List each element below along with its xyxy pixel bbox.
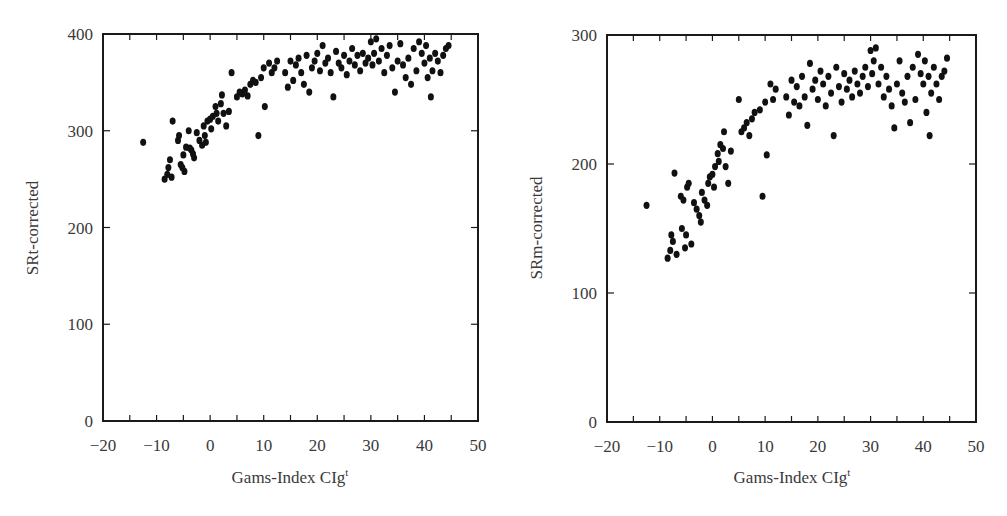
data-point — [752, 109, 758, 116]
data-point — [728, 148, 734, 155]
data-point — [725, 180, 731, 187]
data-point — [698, 218, 704, 225]
data-point — [762, 98, 768, 105]
data-point — [644, 202, 650, 209]
data-point — [862, 64, 868, 71]
data-point — [807, 60, 813, 67]
data-point — [828, 89, 834, 96]
data-point — [907, 119, 913, 126]
data-point — [823, 102, 829, 109]
data-point — [920, 80, 926, 87]
data-point — [839, 98, 845, 105]
data-point — [716, 158, 722, 165]
data-point — [709, 171, 715, 178]
data-point — [736, 96, 742, 103]
data-point — [794, 83, 800, 90]
data-point — [696, 212, 702, 219]
right-y-axis-label: SRm-corrected — [527, 176, 546, 279]
data-point — [715, 150, 721, 157]
data-point — [869, 70, 875, 77]
data-point — [796, 102, 802, 109]
data-point — [857, 89, 863, 96]
data-point — [849, 93, 855, 100]
data-point — [679, 225, 685, 232]
data-point — [873, 44, 879, 51]
y-tick-label: 100 — [572, 284, 598, 303]
x-tick-label: 30 — [862, 437, 879, 456]
y-tick-label: 300 — [572, 26, 598, 45]
data-point — [852, 68, 858, 75]
data-point — [721, 128, 727, 135]
x-tick-label: −10 — [646, 437, 673, 456]
data-point — [674, 251, 680, 258]
data-point — [786, 111, 792, 118]
data-point — [868, 47, 874, 54]
data-point — [927, 132, 933, 139]
data-point — [670, 238, 676, 245]
data-point — [833, 64, 839, 71]
data-point — [889, 102, 895, 109]
data-point — [941, 68, 947, 75]
data-point — [841, 70, 847, 77]
data-point — [854, 80, 860, 87]
data-point — [682, 244, 688, 251]
y-tick-label: 200 — [572, 155, 598, 174]
y-tick-label: 0 — [589, 413, 598, 432]
data-point — [820, 80, 826, 87]
data-point — [688, 240, 694, 247]
data-point — [931, 64, 937, 71]
data-point — [831, 132, 837, 139]
data-point — [817, 68, 823, 75]
data-point — [667, 247, 673, 254]
data-point — [770, 96, 776, 103]
data-point — [783, 93, 789, 100]
data-point — [812, 77, 818, 84]
data-point — [844, 86, 850, 93]
x-tick-label: 50 — [968, 437, 985, 456]
data-point — [804, 122, 810, 129]
data-point — [668, 231, 674, 238]
data-point — [836, 83, 842, 90]
data-point — [904, 73, 910, 80]
right-points — [644, 44, 950, 261]
data-point — [926, 73, 932, 80]
data-point — [711, 184, 717, 191]
data-point — [691, 199, 697, 206]
data-point — [744, 119, 750, 126]
data-point — [910, 64, 916, 71]
data-point — [699, 189, 705, 196]
data-point — [705, 180, 711, 187]
data-point — [891, 124, 897, 131]
right-x-axis-label-main: Gams-Index CIg — [734, 468, 848, 487]
data-point — [799, 73, 805, 80]
data-point — [789, 77, 795, 84]
data-point — [665, 255, 671, 262]
data-point — [680, 197, 686, 204]
data-point — [899, 89, 905, 96]
data-point — [791, 98, 797, 105]
data-point — [923, 109, 929, 116]
data-point — [760, 193, 766, 200]
data-point — [933, 80, 939, 87]
data-point — [922, 57, 928, 64]
data-point — [764, 151, 770, 158]
data-point — [757, 106, 763, 113]
data-point — [902, 98, 908, 105]
data-point — [720, 145, 726, 152]
data-point — [918, 70, 924, 77]
data-point — [875, 80, 881, 87]
right-x-axis-label-sup: t — [847, 466, 850, 478]
data-point — [810, 86, 816, 93]
data-point — [815, 96, 821, 103]
plot-frame — [607, 35, 976, 422]
data-point — [683, 231, 689, 238]
x-tick-label: −20 — [594, 437, 621, 456]
data-point — [871, 57, 877, 64]
x-tick-label: 40 — [915, 437, 932, 456]
data-point — [894, 80, 900, 87]
data-point — [723, 163, 729, 170]
data-point — [746, 132, 752, 139]
x-tick-label: 10 — [757, 437, 774, 456]
right-scatter-plot: −20−10010203040500100200300 SRm-correcte… — [0, 0, 1007, 516]
right-x-axis-label: Gams-Index CIgt — [734, 466, 851, 487]
